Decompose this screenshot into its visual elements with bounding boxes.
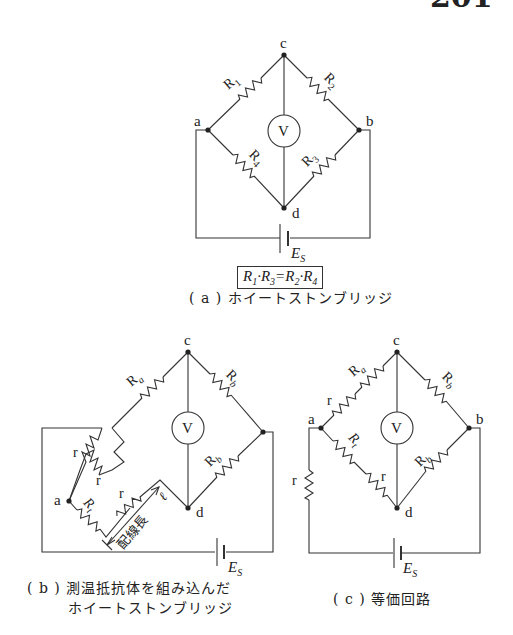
circuit-diagrams <box>0 0 513 635</box>
lead-resistor-r2-label: r <box>96 474 101 488</box>
diagram-a-wiring <box>196 55 370 253</box>
node-d-label: d <box>405 505 413 520</box>
lead-resistor-r1-label: r <box>327 394 332 408</box>
lead-resistor-r2-label: r <box>381 470 386 484</box>
node-a-label: a <box>194 114 201 129</box>
node-c-label: c <box>393 333 400 348</box>
node-d-label: d <box>292 206 300 221</box>
node-c-label: c <box>184 333 191 348</box>
caption-a: ( a ) ホイートストンブリッジ <box>189 291 393 305</box>
lead-resistor-r3-label: r <box>292 474 297 488</box>
source-es-label: ES <box>228 560 242 578</box>
source-es-label: ES <box>291 246 305 264</box>
voltmeter-label: V <box>391 421 402 436</box>
source-es-label: ES <box>403 561 417 579</box>
node-d-label: d <box>196 505 204 520</box>
caption-c: ( c ) 等価回路 <box>333 592 431 606</box>
lead-resistor-r3-label: r <box>119 487 124 501</box>
caption-b-line2: ホイートストンブリッジ <box>68 601 233 615</box>
lead-resistor-r1-label: r <box>73 446 78 460</box>
voltmeter-label: V <box>278 124 289 139</box>
node-c-label: c <box>280 36 287 51</box>
node-a-label: a <box>54 493 61 508</box>
node-a-label: a <box>308 412 315 427</box>
balance-equation: R1·R3=R2·R4 <box>237 266 323 289</box>
node-b-label: b <box>366 114 374 129</box>
caption-b-line1: ( b ) 測温抵抗体を組み込んだ <box>27 581 231 595</box>
voltmeter-label: V <box>182 421 193 436</box>
node-b-label: b <box>476 412 484 427</box>
